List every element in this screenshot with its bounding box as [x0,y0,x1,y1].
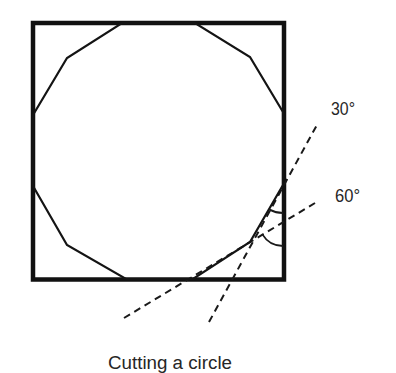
angle-label-60: 60° [335,186,360,206]
inscribed-polygon [33,23,283,279]
cutting-circle-diagram: 30° 60° Cutting a circle [0,0,396,373]
angle-arc-30 [270,210,283,213]
angle-arc-60 [262,234,283,246]
dashed-cut-line-30 [209,123,318,322]
diagram-caption: Cutting a circle [108,353,232,373]
outer-square [33,23,284,280]
angle-label-30: 30° [331,99,355,119]
